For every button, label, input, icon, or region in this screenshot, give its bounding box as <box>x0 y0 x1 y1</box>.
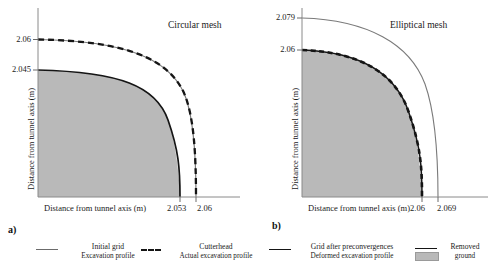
panel-circular-mesh: Circular mesh 2.06 2.045 2.053 2.06 Dist… <box>0 0 250 222</box>
legend-sublabel-actual-excavation-profile: Actual excavation profile <box>160 252 272 260</box>
thick-solid-line-icon <box>269 249 291 250</box>
removed-ground-fill-b <box>302 50 422 197</box>
panel-label-b: b) <box>272 220 281 231</box>
panel-elliptical-mesh: Elliptical mesh 2.079 2.06 2.06 2.069 Di… <box>250 0 494 222</box>
legend-label-removed: Removed <box>440 242 490 251</box>
thin-gray-line-icon <box>36 249 58 250</box>
mesh-title-elliptical: Elliptical mesh <box>390 20 447 30</box>
legend-label-cutterhead: Cutterhead <box>163 242 269 251</box>
removed-ground-fill-a <box>38 70 180 197</box>
legend-sublabel-ground: ground <box>440 252 490 260</box>
y-tick-label-a-1: 2.06 <box>0 34 31 44</box>
x-tick-label-b-2: 2.069 <box>437 203 456 213</box>
thick-dashed-line-icon <box>141 249 161 251</box>
y-tick-label-b-2: 2.06 <box>258 44 295 54</box>
legend-sublabel-excavation-profile: Excavation profile <box>58 252 158 260</box>
x-tick-label-a-2: 2.06 <box>197 203 212 213</box>
mesh-title-circular: Circular mesh <box>168 20 222 30</box>
x-tick-label-a-1: 2.053 <box>167 203 186 213</box>
figure-legend: Initial grid Excavation profile Cutterhe… <box>0 240 494 274</box>
y-axis-label-b: Distance from tunnel axis (m) <box>290 88 300 190</box>
legend-sublabel-deformed-excavation-profile: Deformed excavation profile <box>291 252 413 260</box>
x-axis-label-b: Distance from tunnel axis (m) <box>308 203 410 213</box>
panel-label-a: a) <box>8 224 16 235</box>
figure-container: Circular mesh 2.06 2.045 2.053 2.06 Dist… <box>0 0 494 274</box>
y-tick-label-a-2: 2.045 <box>0 64 31 74</box>
y-axis-label-a: Distance from tunnel axis (m) <box>26 88 36 190</box>
y-tick-label-b-1: 2.079 <box>258 12 295 22</box>
removed-ground-line-icon <box>415 248 437 249</box>
elliptical-mesh-plot <box>250 0 494 222</box>
x-axis-label-a: Distance from tunnel axis (m) <box>44 203 146 213</box>
x-tick-label-b-1: 2.06 <box>410 203 425 213</box>
circular-mesh-plot <box>0 0 250 222</box>
legend-label-grid-after-preconvergences: Grid after preconvergences <box>291 242 413 251</box>
gray-fill-swatch-icon <box>415 252 439 261</box>
